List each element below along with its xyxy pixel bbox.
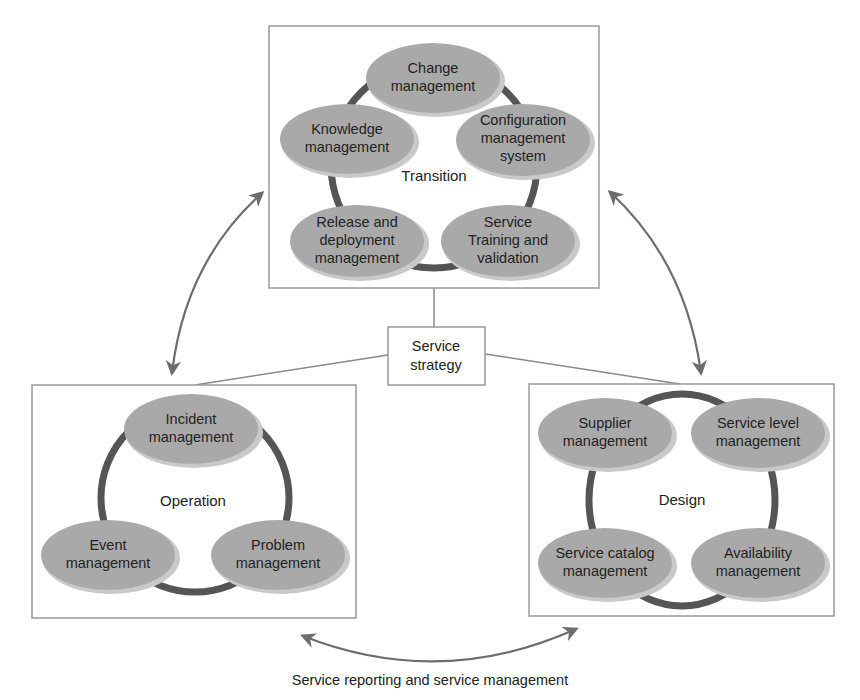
- node-label: management: [66, 555, 151, 571]
- node-label: Service: [484, 214, 532, 230]
- node-label: Service level: [717, 415, 799, 431]
- transition-panel: Change management Configuration manageme…: [269, 26, 599, 288]
- node-label: Supplier: [578, 415, 631, 431]
- service-strategy-label: strategy: [410, 357, 462, 373]
- node-label: Availability: [724, 545, 793, 561]
- connector-strategy-operation: [195, 355, 388, 385]
- connector-strategy-design: [485, 354, 680, 384]
- caption-line-2-clipped: [0, 689, 860, 700]
- node-label: Service catalog: [555, 545, 654, 561]
- node-label: Change: [408, 60, 459, 76]
- node-label: Event: [89, 537, 126, 553]
- lifecycle-diagram: Change management Configuration manageme…: [0, 0, 860, 700]
- node-label: management: [563, 433, 648, 449]
- service-strategy-label: Service: [412, 338, 460, 354]
- node-label: management: [481, 130, 566, 146]
- node-label: Training and: [468, 232, 548, 248]
- node-label: management: [716, 433, 801, 449]
- caption-line-1: Service reporting and service management: [0, 671, 860, 689]
- service-strategy-box: Service strategy: [388, 327, 485, 385]
- arrow-operation-transition: [172, 193, 262, 373]
- service-strategy-frame: [388, 327, 485, 385]
- node-label: Problem: [251, 537, 305, 553]
- node-label: management: [236, 555, 321, 571]
- phase-label-transition: Transition: [401, 167, 466, 184]
- design-panel: Supplier management Service level manage…: [529, 384, 834, 616]
- node-label: Configuration: [480, 112, 566, 128]
- arrow-operation-design: [303, 629, 576, 661]
- node-label: validation: [477, 250, 538, 266]
- node-label: deployment: [320, 232, 395, 248]
- node-label: management: [149, 429, 234, 445]
- node-label: system: [500, 148, 546, 164]
- phase-label-operation: Operation: [160, 492, 226, 509]
- node-label: Release and: [316, 214, 397, 230]
- phase-label-design: Design: [659, 491, 706, 508]
- node-label: management: [315, 250, 400, 266]
- arrow-transition-design: [610, 192, 701, 373]
- node-label: management: [391, 78, 476, 94]
- node-label: management: [305, 139, 390, 155]
- node-label: management: [716, 563, 801, 579]
- operation-panel: Incident management Problem management E…: [32, 385, 356, 618]
- node-label: Knowledge: [311, 121, 383, 137]
- node-label: management: [563, 563, 648, 579]
- node-label: Incident: [166, 411, 217, 427]
